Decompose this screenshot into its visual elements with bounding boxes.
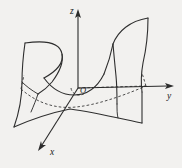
right-wing-top-rim bbox=[113, 18, 148, 44]
right-wing-bottom-rim bbox=[70, 109, 142, 123]
surface-visible-edges bbox=[14, 18, 148, 127]
left-wing-bottom-rim bbox=[14, 109, 70, 127]
x-axis-label: x bbox=[49, 147, 55, 157]
coordinate-axes bbox=[38, 9, 174, 151]
origin-label: O bbox=[80, 85, 86, 95]
z-axis-label: z bbox=[69, 6, 74, 16]
saddle-right-branch bbox=[104, 44, 113, 74]
x-axis-arrowhead bbox=[38, 141, 46, 151]
back-right-riser bbox=[142, 73, 146, 86]
left-outer-silhouette bbox=[22, 82, 38, 94]
x-axis-line bbox=[42, 88, 78, 145]
y-axis-line bbox=[78, 86, 168, 88]
right-wing-inner-fold bbox=[113, 44, 117, 104]
left-wing-left-edge bbox=[14, 43, 25, 127]
y-axis-label: y bbox=[166, 91, 172, 101]
saddle-surface-figure: z y x O bbox=[0, 0, 182, 168]
figure-canvas: z y x O bbox=[0, 0, 182, 168]
saddle-valley-curve bbox=[44, 74, 104, 95]
right-wing-lower-seam bbox=[117, 104, 118, 118]
left-wing-top-rim bbox=[25, 42, 62, 78]
left-wing-lower-seam bbox=[31, 94, 38, 112]
